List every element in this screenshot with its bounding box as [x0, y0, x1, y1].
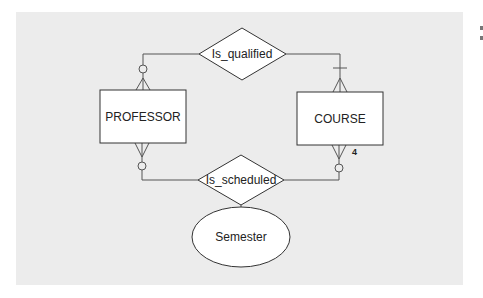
connector-scheduled-professor [142, 143, 198, 180]
connector-qualified-professor [143, 54, 199, 90]
crowfoot-icon [136, 78, 143, 90]
crowfoot-icon [135, 143, 142, 157]
relationship-label: Is_scheduled [206, 173, 277, 187]
cardinality-scheduled-course: 4 [332, 145, 357, 172]
connector-scheduled-course [284, 145, 339, 180]
optional-circle-icon [335, 164, 343, 172]
attribute-label: Semester [215, 230, 266, 244]
cardinality-annotation: 4 [352, 147, 357, 157]
er-diagram: 4 Is_qualified Is_scheduled PROFESSOR CO… [0, 0, 483, 298]
entity-professor[interactable]: PROFESSOR [100, 90, 186, 143]
crowfoot-icon [332, 145, 339, 159]
crowfoot-icon [339, 145, 346, 159]
connector-qualified-course [286, 54, 340, 92]
relationship-is-qualified[interactable]: Is_qualified [199, 28, 286, 80]
crowfoot-icon [340, 78, 347, 92]
attribute-semester[interactable]: Semester [192, 207, 290, 267]
entity-label: PROFESSOR [105, 110, 181, 124]
crowfoot-icon [333, 78, 340, 92]
crowfoot-icon [142, 143, 149, 157]
relationship-label: Is_qualified [212, 47, 273, 61]
entity-course[interactable]: COURSE [297, 92, 383, 145]
optional-circle-icon [139, 65, 147, 73]
optional-circle-icon [138, 162, 146, 170]
entity-label: COURSE [314, 112, 365, 126]
crowfoot-icon [143, 78, 150, 90]
relationship-is-scheduled[interactable]: Is_scheduled [198, 155, 284, 205]
